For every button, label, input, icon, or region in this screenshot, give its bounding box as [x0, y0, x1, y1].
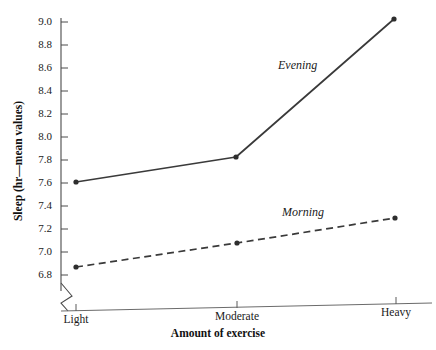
series-markers-morning	[73, 215, 397, 269]
chart-canvas	[0, 0, 436, 350]
y-tick-label: 9.0	[8, 15, 52, 27]
y-tick-label: 6.8	[8, 268, 52, 280]
series-label-evening: Evening	[278, 58, 317, 73]
axis-break-icon	[61, 283, 72, 311]
x-tick-label-heavy: Heavy	[381, 306, 411, 318]
x-axis-title: Amount of exercise	[0, 327, 436, 339]
series-label-morning: Morning	[282, 205, 324, 220]
x-axis-ticks	[76, 297, 396, 311]
series-markers-evening	[73, 16, 396, 184]
x-tick-label-light: Light	[64, 313, 89, 325]
y-tick-label: 8.8	[8, 38, 52, 50]
x-tick-label-moderate: Moderate	[215, 310, 259, 322]
y-axis-ticks	[61, 22, 68, 275]
y-axis-title: Sleep (hr—mean values)	[12, 61, 24, 261]
sleep-exercise-line-chart: 9.0 8.8 8.6 8.4 8.2 8.0 7.8 7.6 7.4 7.2 …	[0, 0, 436, 350]
